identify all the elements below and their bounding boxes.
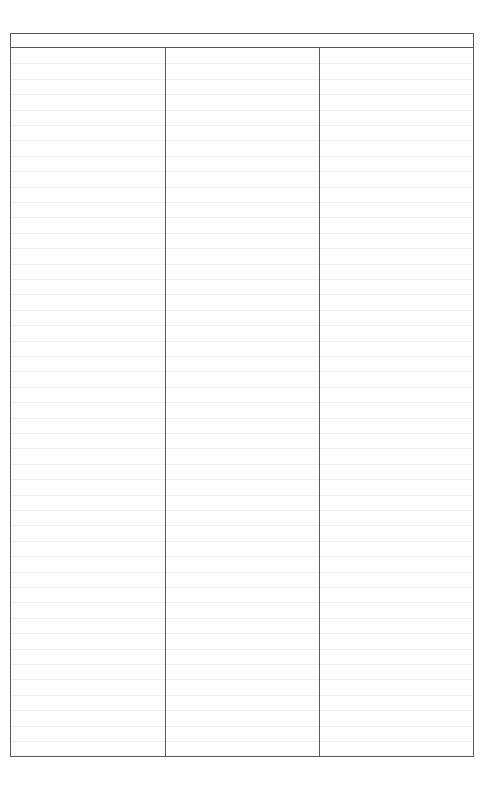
table-header-cell-3[interactable] xyxy=(320,34,472,47)
form-table xyxy=(10,33,474,757)
document-page xyxy=(0,0,499,792)
table-body-column-2[interactable] xyxy=(166,48,319,756)
table-body-column-3[interactable] xyxy=(320,48,472,756)
table-header-row xyxy=(11,34,473,48)
column-divider-2 xyxy=(319,48,321,756)
table-body-column-1[interactable] xyxy=(11,48,165,756)
table-header-cell-2[interactable] xyxy=(166,34,320,47)
table-header-cell-1[interactable] xyxy=(11,34,166,47)
column-divider-1 xyxy=(165,48,167,756)
table-body xyxy=(11,48,473,756)
